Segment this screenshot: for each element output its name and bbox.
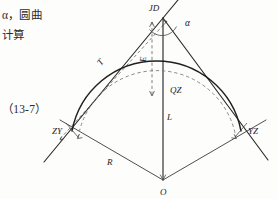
label-r: R	[106, 157, 113, 167]
tangent-extension-above-jd	[163, 0, 178, 18]
curve-length-arrow-start	[77, 134, 82, 139]
radius-line-left	[60, 120, 163, 180]
tangent-line-left	[44, 18, 163, 162]
label-qz: QZ	[170, 85, 182, 95]
label-o: O	[160, 187, 167, 197]
label-tangent-t: T	[95, 56, 107, 67]
circular-curve-diagram: JD α T E QZ ZY YZ L R O	[0, 0, 277, 199]
label-jd: JD	[149, 3, 160, 13]
circular-curve-arc	[72, 61, 241, 131]
label-yz: YZ	[248, 126, 259, 136]
label-zy: ZY	[52, 126, 63, 136]
figure-page: α，圆曲 计算 （13-7）	[0, 0, 277, 199]
label-external-e: E	[138, 56, 148, 63]
dashed-tangent-left	[60, 21, 167, 139]
label-alpha: α	[185, 18, 191, 28]
label-l: L	[166, 112, 172, 122]
